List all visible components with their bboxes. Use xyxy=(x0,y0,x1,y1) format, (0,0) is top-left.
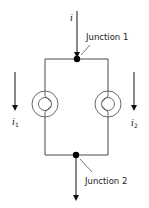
junction-2-leader xyxy=(80,159,92,172)
junction-2-label: Junction 2 xyxy=(84,176,127,186)
circuit-wires xyxy=(45,59,108,155)
junction-1-leader xyxy=(81,45,90,55)
junction-1-label: Junction 1 xyxy=(85,32,128,42)
output-current-arrow xyxy=(73,158,79,201)
arrowhead-icon xyxy=(73,195,79,201)
input-current-label: i xyxy=(70,13,73,23)
branch-1-current-label: i1 xyxy=(12,117,19,128)
arrowhead-icon xyxy=(12,105,18,111)
input-current-arrow xyxy=(74,11,80,58)
branch-1-current-arrow xyxy=(12,72,18,111)
arrowhead-icon xyxy=(131,105,137,111)
junction-1-dot xyxy=(74,56,80,62)
parallel-circuit-diagram: i Junction 1 Junction 2 xyxy=(0,0,149,208)
branch-2-current-label: i2 xyxy=(131,118,138,129)
bulb-2-icon xyxy=(95,91,121,117)
bulb-1-icon xyxy=(32,91,58,117)
junction-2-dot xyxy=(73,152,79,158)
branch-2-current-arrow xyxy=(131,72,137,111)
